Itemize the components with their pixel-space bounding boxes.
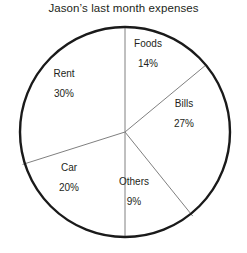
slice-label-car: Car 20%: [44, 162, 94, 194]
slice-name-foods: Foods: [118, 38, 178, 50]
slice-value-bills: 27%: [158, 118, 210, 130]
slice-label-others: Others 9%: [106, 176, 162, 208]
slice-name-bills: Bills: [158, 98, 210, 110]
slice-value-foods: 14%: [118, 58, 178, 70]
slice-name-others: Others: [106, 176, 162, 188]
slice-value-others: 9%: [106, 196, 162, 208]
slice-label-bills: Bills 27%: [158, 98, 210, 130]
slice-label-foods: Foods 14%: [118, 38, 178, 70]
pie-chart-figure: Jason’s last month expenses Foods 14% Bi…: [0, 0, 247, 253]
slice-value-rent: 30%: [36, 88, 92, 100]
slice-name-car: Car: [44, 162, 94, 174]
slice-label-rent: Rent 30%: [36, 68, 92, 100]
slice-name-rent: Rent: [36, 68, 92, 80]
slice-value-car: 20%: [44, 182, 94, 194]
